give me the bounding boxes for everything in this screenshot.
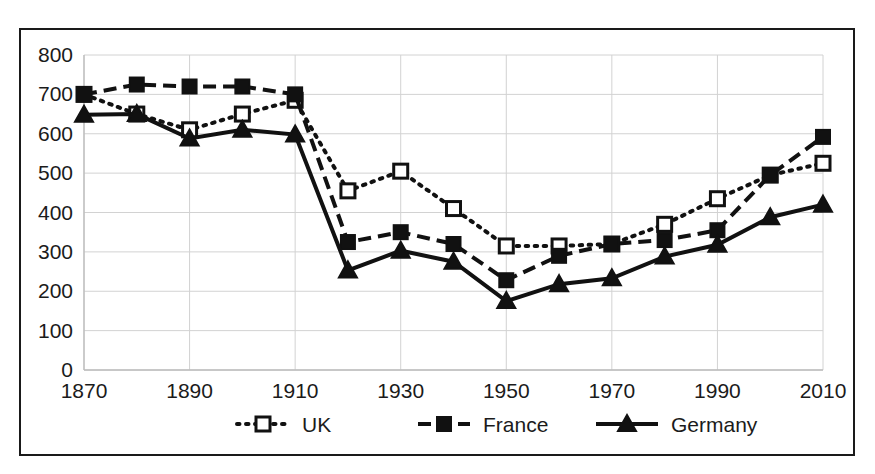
chart-page: 0100200300400500600700800 18701890191019… bbox=[0, 0, 875, 474]
figure-frame bbox=[19, 28, 855, 456]
